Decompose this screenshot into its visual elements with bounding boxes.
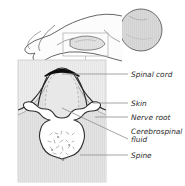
label-skin: Skin [131, 99, 147, 108]
label-cerebrospinal-fluid-line2: fluid [131, 135, 148, 144]
label-spinal-cord: Spinal cord [131, 70, 173, 79]
anatomical-figure: Spinal cord Skin Nerve root Cerebrospina… [0, 0, 185, 186]
cross-section-panel [18, 60, 106, 182]
infant-head [120, 9, 162, 51]
label-nerve-root: Nerve root [131, 113, 171, 122]
label-spine: Spine [131, 151, 152, 160]
